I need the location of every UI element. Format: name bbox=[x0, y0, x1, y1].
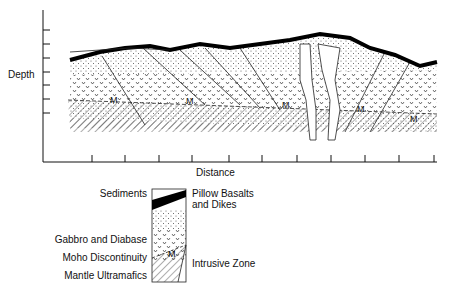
legend-dikes: and Dikes bbox=[192, 199, 236, 210]
legend-sediments: Sediments bbox=[100, 188, 147, 199]
svg-text:M: M bbox=[282, 100, 290, 110]
svg-text:M: M bbox=[168, 249, 176, 259]
distance-axis-label: Distance bbox=[196, 167, 235, 178]
svg-text:M: M bbox=[410, 114, 418, 124]
svg-text:M: M bbox=[357, 104, 365, 114]
depth-axis bbox=[43, 10, 50, 162]
legend-pillow-basalts: Pillow Basalts bbox=[192, 188, 254, 199]
svg-text:M: M bbox=[186, 96, 194, 106]
distance-axis bbox=[43, 155, 437, 162]
legend-moho: Moho Discontinuity bbox=[63, 252, 147, 263]
cross-section: MM MMM bbox=[60, 30, 450, 140]
legend-mantle: Mantle Ultramafics bbox=[64, 270, 147, 281]
legend-intrusive-zone: Intrusive Zone bbox=[192, 258, 255, 269]
depth-axis-label: Depth bbox=[8, 69, 35, 80]
legend-column: M bbox=[152, 189, 186, 282]
legend-gabbro: Gabbro and Diabase bbox=[55, 234, 147, 245]
svg-text:M: M bbox=[110, 95, 118, 105]
